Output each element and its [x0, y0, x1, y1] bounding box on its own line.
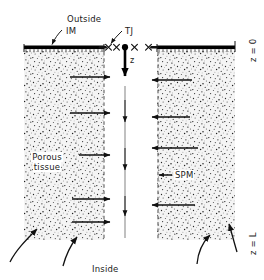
- diagram-svg: [0, 0, 264, 280]
- tj-leader-line: [111, 31, 122, 44]
- im-leader-line: [52, 30, 62, 45]
- label-tj: TJ: [125, 26, 133, 36]
- inside-curved-arrow-mid: [63, 237, 77, 266]
- label-inside: Inside: [92, 264, 119, 274]
- label-porous-line2: tissue: [33, 162, 61, 172]
- label-z-axis: z: [129, 56, 135, 66]
- label-z-bottom: z = L: [248, 232, 258, 255]
- label-spm: SPM: [174, 170, 194, 180]
- tj-mark: [114, 44, 120, 50]
- inside-curved-arrow-left: [10, 229, 37, 262]
- label-im: IM: [66, 26, 76, 36]
- tight-junction-marks: [100, 44, 157, 50]
- right-intestinal-membrane: [157, 41, 235, 52]
- label-porous-tissue: Porous tissue: [26, 152, 68, 172]
- left-porous-tissue-block: [24, 51, 104, 240]
- label-outside: Outside: [67, 14, 101, 24]
- label-z-top: z = 0: [248, 39, 258, 62]
- tj-mark: [132, 44, 138, 50]
- figure-canvas: Outside IM TJ z Porous tissue SPM Inside…: [0, 0, 264, 280]
- label-porous-line1: Porous: [31, 152, 63, 162]
